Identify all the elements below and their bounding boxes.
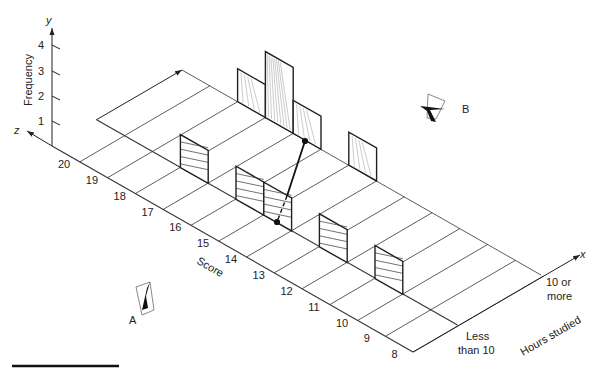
score-tick-label: 12 <box>280 285 292 297</box>
score-tick-label: 19 <box>86 174 98 186</box>
z-axis <box>27 131 52 146</box>
score-axis-label: Score <box>195 254 226 279</box>
score-tick-label: 20 <box>58 158 70 170</box>
bar-less-than-10-score-12 <box>319 214 347 263</box>
hours-cat-less-line1: Less <box>466 330 490 342</box>
eye-viewpoint-b-icon <box>420 94 445 122</box>
score-tick-label: 11 <box>308 301 319 313</box>
bar-less-than-10-score-15 <box>236 166 264 215</box>
hours-axis-label: Hours studied <box>518 313 583 357</box>
score-tick-label: 10 <box>336 317 348 329</box>
score-tick-label: 14 <box>225 253 237 265</box>
score-tick-label: 8 <box>392 348 398 360</box>
score-tick-label: 17 <box>141 206 153 218</box>
score-tick-label: 13 <box>253 269 265 281</box>
score-tick-label: 9 <box>364 332 370 344</box>
viewpoint-a-label: A <box>129 314 137 326</box>
y-tick-2: 2 <box>38 90 44 102</box>
bar-10-or-more-score-17 <box>265 52 293 134</box>
y-tick-4: 4 <box>38 39 44 51</box>
y-axis-letter: y <box>45 14 53 26</box>
axes <box>27 28 580 352</box>
x-axis-letter: x <box>579 248 586 260</box>
score-tick-label: 16 <box>169 221 181 233</box>
viewpoint-b-label: B <box>462 103 469 115</box>
back-left-arrow <box>96 70 182 120</box>
hours-cat-more-line1: 10 or <box>546 276 571 288</box>
bar-10-or-more-score-18 <box>238 69 266 118</box>
bar-less-than-10-score-10 <box>375 246 403 295</box>
score-tick-label: 15 <box>197 237 209 249</box>
eye-viewpoint-a-icon <box>136 282 154 315</box>
3d-bar-diagram: A B y z x 1 2 3 4 Frequency 201918171615… <box>0 0 600 371</box>
bar-less-than-10-score-17 <box>180 135 208 184</box>
bar-10-or-more-score-14 <box>349 132 377 181</box>
z-axis-letter: z <box>13 124 20 136</box>
hours-cat-more-line2: more <box>547 290 572 302</box>
y-tick-3: 3 <box>38 65 44 77</box>
hours-cat-less-line2: than 10 <box>458 344 495 356</box>
y-axis-label: Frequency <box>22 54 34 106</box>
score-tick-label: 18 <box>114 190 126 202</box>
y-tick-1: 1 <box>38 115 44 127</box>
